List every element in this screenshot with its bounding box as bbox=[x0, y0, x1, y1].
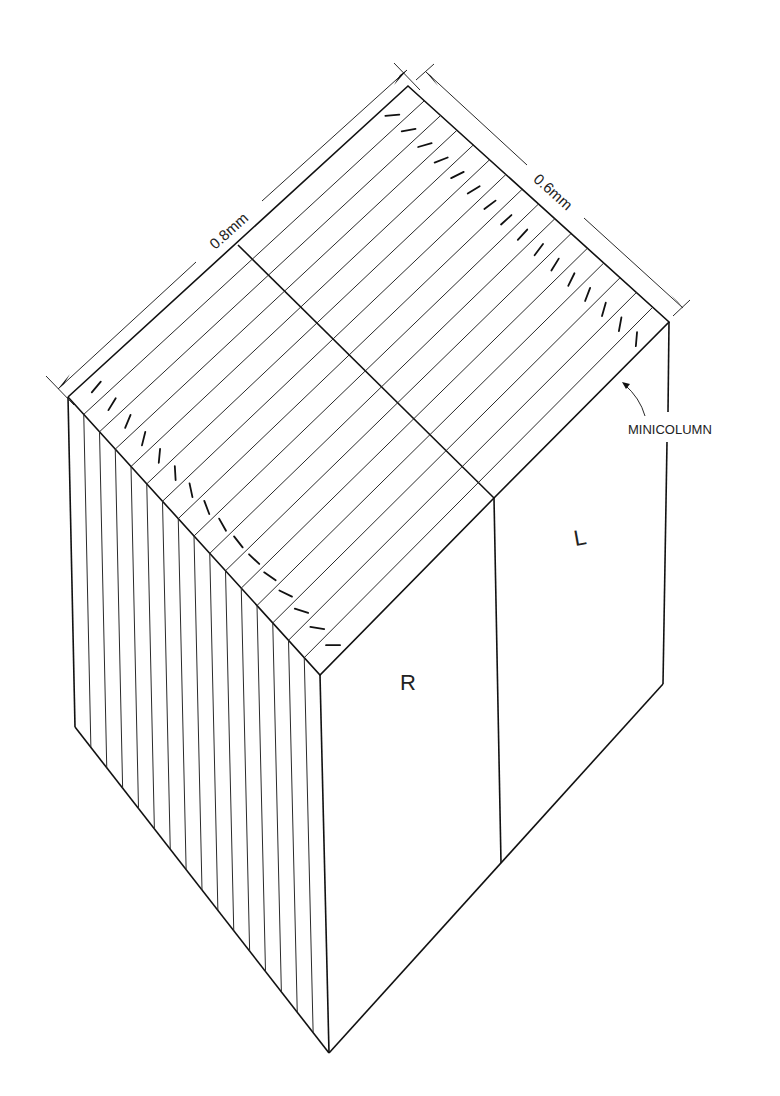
dimension-label-length: 0.8mm bbox=[206, 209, 251, 252]
left-face bbox=[68, 397, 329, 1053]
right-eye-label: R bbox=[400, 670, 416, 695]
dimension-0.8mm: 0.8mm bbox=[46, 63, 420, 405]
ocular-dominance-divider bbox=[494, 498, 501, 863]
orientation-ticks-left bbox=[92, 382, 340, 646]
top-face bbox=[68, 86, 669, 675]
left-eye-label: L bbox=[572, 524, 588, 551]
minicolumn-callout: MINICOLUMN bbox=[622, 382, 712, 437]
dimension-label-width: 0.6mm bbox=[531, 170, 576, 213]
top-stripes bbox=[84, 101, 653, 658]
minicolumn-label: MINICOLUMN bbox=[628, 422, 712, 437]
ice-cube-diagram: 0.8mm 0.6mm R L MINICOLUMN bbox=[0, 0, 780, 1096]
right-face bbox=[329, 322, 669, 1053]
side-stripes bbox=[84, 414, 313, 1032]
